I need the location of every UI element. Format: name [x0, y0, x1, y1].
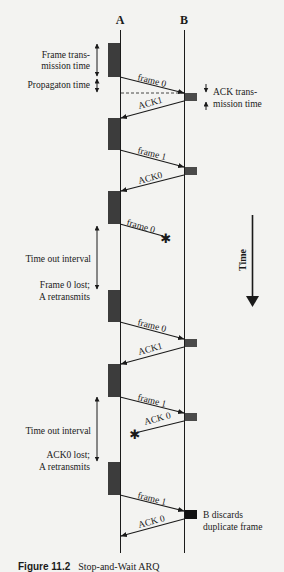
figure-number: Figure 11.2 [18, 561, 70, 572]
message-label: frame 0 [125, 217, 156, 235]
message-label: ACK1 [137, 95, 164, 111]
message-label: ACK1 [137, 341, 164, 357]
loss-note: A retransmits [39, 462, 90, 472]
frame-block [108, 290, 120, 322]
loss-note: A retransmits [39, 292, 90, 302]
message-label: frame 0 [137, 72, 168, 89]
message-label: frame 0 [137, 317, 168, 334]
frame-block [108, 191, 120, 224]
ack-block [185, 167, 197, 175]
loss-asterisk-icon: ✱ [161, 231, 172, 246]
figure-caption: Figure 11.2Stop-and-Wait ARQ [18, 561, 159, 572]
ack-block [185, 339, 197, 347]
loss-note: ACK0 lost; [46, 450, 90, 460]
loss-asterisk-icon: ✱ [130, 427, 141, 442]
station-b-label: B [180, 13, 188, 27]
frame-block [108, 118, 120, 150]
figure-title: Stop-and-Wait ARQ [78, 561, 159, 572]
message-label: frame 1 [137, 392, 168, 409]
message-label: ACK 0 [143, 410, 172, 427]
ack-blocks-b [185, 93, 197, 519]
frame-block [108, 43, 120, 77]
message-label: frame 1 [137, 145, 168, 162]
frame-blocks-a [108, 43, 120, 495]
frame-block [108, 364, 120, 397]
message-label: frame 1 [137, 490, 168, 507]
discard-note: duplicate frame [203, 522, 262, 532]
ack-tx-label: mission time [213, 99, 262, 109]
time-axis-arrowhead-icon [246, 296, 259, 307]
station-a-label: A [116, 13, 125, 27]
ack-block [185, 93, 197, 101]
messages [120, 77, 184, 536]
propagation-label: Propagaton time [27, 80, 90, 90]
time-axis-label: Time [237, 248, 248, 271]
discard-note: B discards [203, 510, 243, 520]
frame-tx-label: Frame trans- [42, 50, 90, 60]
timeout-label: Time out interval [25, 254, 91, 264]
timeout-label: Time out interval [25, 426, 91, 436]
loss-note: Frame 0 lost; [40, 280, 90, 290]
duplicate-ack-block [185, 510, 197, 519]
frame-tx-label: mission time [41, 61, 90, 71]
ack-block [185, 413, 197, 421]
frame-block [108, 462, 120, 495]
ack-tx-label: ACK trans- [213, 87, 257, 97]
